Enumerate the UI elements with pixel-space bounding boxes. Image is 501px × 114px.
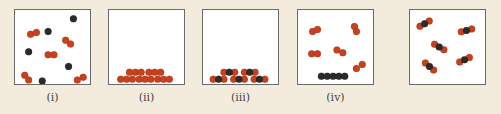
carbon-atom [215,76,222,83]
panel-i-molecules [15,10,90,84]
carbon-atom [25,48,32,55]
oxygen-atom [166,76,173,83]
panel-ii-molecules [109,10,184,84]
carbon-atom [461,56,468,63]
oxygen-atom [67,41,74,48]
carbon-atom [226,69,233,76]
panel-iii-molecules [203,10,278,84]
carbon-atom [236,76,243,83]
oxygen-atom [157,69,164,76]
carbon-atom [426,63,433,70]
carbon-atom [65,63,72,70]
carbon-atom [421,20,428,27]
panel-ii-label: (ii) [108,91,185,104]
carbon-atom [256,76,263,83]
carbon-atom [246,69,253,76]
carbon-atom [341,73,348,80]
panel-iii-label: (iii) [202,91,279,104]
oxygen-atom [314,26,321,33]
oxygen-atom [33,29,40,36]
panel-v [409,9,486,85]
oxygen-atom [353,28,360,35]
oxygen-atom [80,74,87,81]
panel-ii [108,9,185,85]
panel-iv-molecules [298,10,373,84]
carbon-atom [70,15,77,22]
carbon-atom [463,27,470,34]
oxygen-atom [359,61,366,68]
oxygen-atom [129,76,136,83]
oxygen-atom [314,50,321,57]
panel-iv-label: (iv) [297,91,374,104]
oxygen-atom [147,76,154,83]
carbon-atom [45,28,52,35]
panel-iv [297,9,374,85]
oxygen-atom [339,49,346,56]
panel-iii [202,9,279,85]
oxygen-atom [50,51,57,58]
carbon-atom [436,43,443,50]
oxygen-atom [138,69,145,76]
carbon-atom [39,78,46,84]
panel-i-label: (i) [14,91,91,104]
panel-v-molecules [410,10,485,84]
panel-i [14,9,91,85]
oxygen-atom [25,77,32,84]
